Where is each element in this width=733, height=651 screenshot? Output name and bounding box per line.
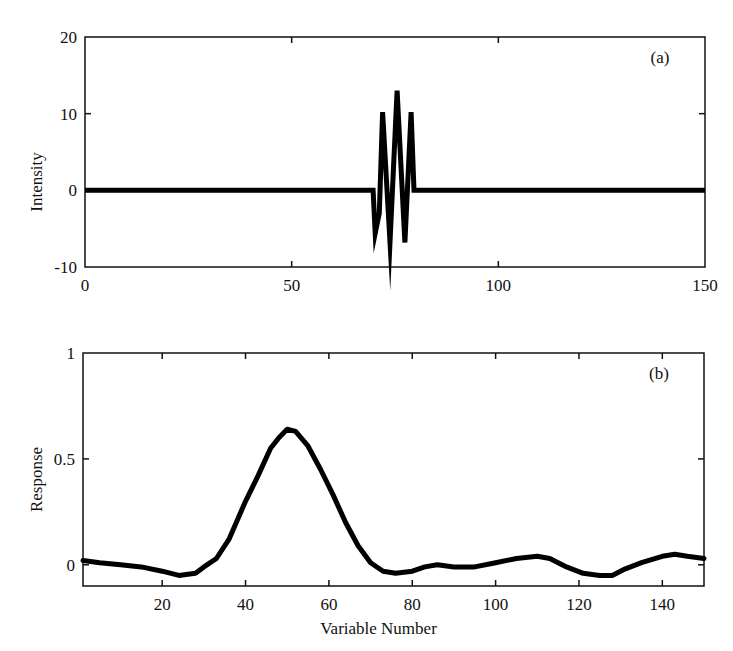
y-tick-label: 0.5 [54, 450, 75, 469]
panel-b-y-axis-label: Response [27, 447, 46, 512]
x-tick-label: 20 [154, 595, 171, 614]
panel-a-label: (a) [651, 48, 670, 67]
panel-b-label: (b) [649, 364, 669, 383]
y-tick-label: -10 [54, 258, 77, 277]
y-tick-label: 1 [67, 344, 76, 363]
x-tick-label: 140 [650, 595, 676, 614]
panel-b-response-line [83, 429, 704, 575]
x-tick-label: 100 [483, 595, 509, 614]
x-tick-label: 150 [692, 276, 718, 295]
x-tick-label: 80 [404, 595, 421, 614]
x-tick-label: 60 [320, 595, 337, 614]
x-tick-label: 100 [486, 276, 512, 295]
y-tick-label: 10 [60, 105, 77, 124]
panel-b-axes-frame [83, 353, 704, 586]
panel-a-intensity-plot: 050100150-1001020 (a) Intensity [27, 28, 718, 295]
panel-b-x-axis-label: Variable Number [320, 619, 437, 638]
figure: 050100150-1001020 (a) Intensity 20406080… [0, 0, 733, 651]
panel-a-intensity-line [85, 91, 705, 243]
y-tick-label: 0 [67, 556, 76, 575]
panel-a-y-axis-label: Intensity [27, 152, 46, 212]
x-tick-label: 0 [81, 276, 90, 295]
x-tick-label: 120 [566, 595, 592, 614]
x-tick-label: 40 [237, 595, 254, 614]
y-tick-label: 0 [69, 181, 78, 200]
panel-b-response-plot: 2040608010012014000.51 (b) Response Vari… [27, 344, 704, 638]
y-tick-label: 20 [60, 28, 77, 47]
x-tick-label: 50 [283, 276, 300, 295]
